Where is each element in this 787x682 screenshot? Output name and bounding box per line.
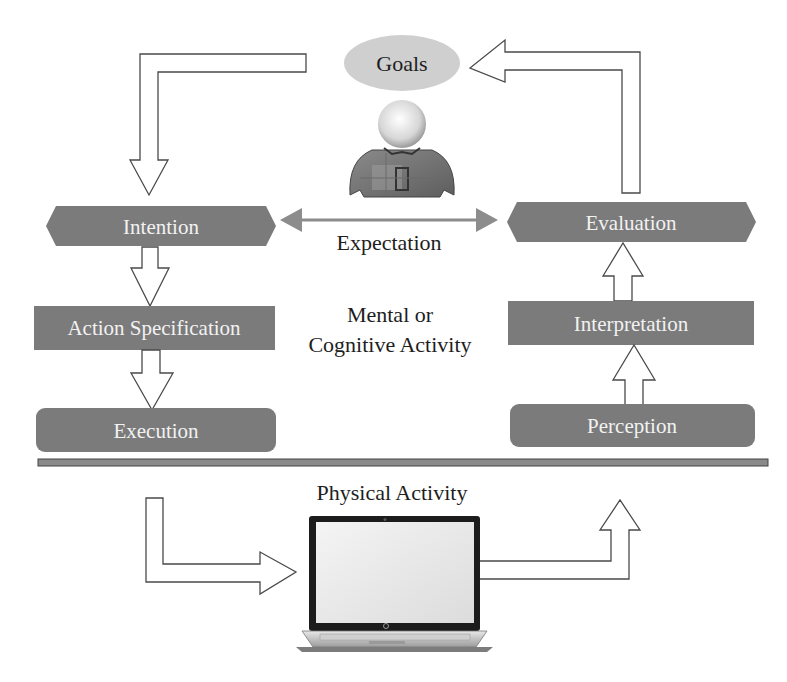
intention-to-action-spec-arrow [131,247,169,306]
execution-label: Execution [113,419,199,443]
goals-node: Goals [344,35,460,91]
physical-activity-label: Physical Activity [317,480,468,505]
person-icon [350,100,454,197]
interpretation-label: Interpretation [574,312,689,336]
mental-physical-divider [38,459,768,466]
seven-stages-diagram: Goals Intention Evaluation Expectation A… [0,0,787,682]
action-spec-to-execution-arrow [131,350,173,410]
action-specification-label: Action Specification [67,316,241,340]
mental-activity-line1: Mental or [347,302,434,327]
execution-node: Execution [36,408,276,452]
intention-label: Intention [123,215,199,239]
expectation-arrow [280,208,498,232]
mental-activity-line2: Cognitive Activity [308,332,471,357]
action-specification-node: Action Specification [34,306,275,350]
perception-node: Perception [510,404,755,447]
laptop-to-perception-arrow [476,500,640,579]
goals-to-intention-arrow [130,54,306,195]
evaluation-to-goals-arrow [470,40,640,193]
perception-to-interpretation-arrow [613,345,655,405]
interpretation-to-evaluation-arrow [603,243,643,301]
intention-node: Intention [46,206,276,246]
interpretation-node: Interpretation [508,301,754,345]
execution-to-laptop-arrow [146,498,296,594]
evaluation-node: Evaluation [507,202,756,242]
perception-label: Perception [587,414,677,438]
laptop-icon [296,516,493,652]
evaluation-label: Evaluation [586,211,677,235]
expectation-label: Expectation [336,230,441,255]
goals-label: Goals [376,51,427,76]
